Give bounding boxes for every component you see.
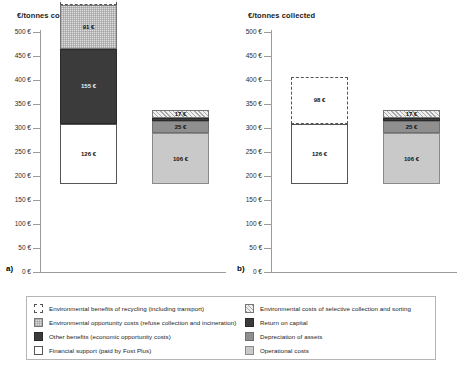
x-axis-line xyxy=(271,272,457,273)
x-axis-line xyxy=(40,272,226,273)
y-axis-tick-label: 200 € xyxy=(3,172,31,179)
y-axis-tick xyxy=(33,104,40,105)
legend-swatch-environmental_opportunity_costs xyxy=(34,318,43,327)
legend-item: Environmental opportunity costs (refuse … xyxy=(34,316,244,329)
y-axis-tick xyxy=(264,176,271,177)
bar-segment-environmental_benefits_recycling: 98 € xyxy=(60,0,117,5)
bar-segment-return_on_capital xyxy=(383,118,440,121)
legend-item: Depreciation of assets xyxy=(245,330,435,343)
y-axis-title: €/tonnes collected xyxy=(248,11,315,20)
y-axis-tick xyxy=(264,104,271,105)
y-axis-tick xyxy=(33,128,40,129)
y-axis-tick xyxy=(33,248,40,249)
y-axis-tick xyxy=(264,152,271,153)
bar-segment-depreciation_of_assets: 25 € xyxy=(152,121,209,133)
legend-swatch-financial_support xyxy=(34,346,43,355)
panel-tag-b: b) xyxy=(237,264,245,273)
y-axis-tick xyxy=(264,32,271,33)
y-axis-tick-label: 250 € xyxy=(3,148,31,155)
y-axis-tick-label: 100 € xyxy=(234,220,262,227)
bar-segment-operational_costs: 106 € xyxy=(383,133,440,184)
y-axis-tick-label: 400 € xyxy=(3,76,31,83)
y-axis-line xyxy=(40,30,41,273)
legend-item: Other benefits (economic opportunity cos… xyxy=(34,330,244,343)
y-axis-tick-label: 500 € xyxy=(3,28,31,35)
legend-label: Financial support (paid by Fost Plus) xyxy=(49,347,151,354)
y-axis-tick xyxy=(264,248,271,249)
bar-segment-return_on_capital xyxy=(152,118,209,121)
legend-item: Return on capital xyxy=(245,316,435,329)
legend-item: Environmental costs of selective collect… xyxy=(245,302,435,315)
y-axis-tick xyxy=(33,224,40,225)
legend-item: Environmental benefits of recycling (inc… xyxy=(34,302,244,315)
y-axis-tick-label: 150 € xyxy=(234,196,262,203)
benefits-bar: 126 €98 € xyxy=(291,183,348,184)
legend-label: Other benefits (economic opportunity cos… xyxy=(49,333,171,340)
legend-swatch-operational_costs xyxy=(245,346,254,355)
y-axis-tick-label: 350 € xyxy=(234,100,262,107)
legend-swatch-environmental_benefits_recycling xyxy=(34,304,43,313)
y-axis-tick-label: 500 € xyxy=(234,28,262,35)
legend-label: Depreciation of assets xyxy=(260,333,322,340)
y-axis-tick xyxy=(264,128,271,129)
y-axis-line xyxy=(271,30,272,273)
costs-bar: 106 €25 €17 € xyxy=(383,183,440,184)
chart-legend: Environmental benefits of recycling (inc… xyxy=(26,296,436,360)
y-axis-tick-label: 450 € xyxy=(3,52,31,59)
legend-column-left: Environmental benefits of recycling (inc… xyxy=(34,302,244,358)
bar-segment-depreciation_of_assets: 25 € xyxy=(383,121,440,133)
y-axis-tick xyxy=(264,56,271,57)
legend-label: Environmental benefits of recycling (inc… xyxy=(49,305,204,312)
bar-segment-environmental_benefits_recycling: 98 € xyxy=(291,77,348,124)
legend-item: Financial support (paid by Fost Plus) xyxy=(34,344,244,357)
legend-label: Environmental opportunity costs (refuse … xyxy=(49,319,236,326)
legend-swatch-environmental_costs_selective xyxy=(245,304,254,313)
y-axis-tick xyxy=(264,224,271,225)
y-axis-tick-label: 400 € xyxy=(234,76,262,83)
bar-segment-financial_support: 126 € xyxy=(60,124,117,184)
y-axis-tick-label: 50 € xyxy=(3,244,31,251)
y-axis-tick-label: 100 € xyxy=(3,220,31,227)
legend-swatch-return_on_capital xyxy=(245,318,254,327)
y-axis-tick xyxy=(264,200,271,201)
legend-swatch-other_benefits xyxy=(34,332,43,341)
y-axis-tick xyxy=(33,176,40,177)
y-axis-tick-label: 200 € xyxy=(234,172,262,179)
y-axis-tick xyxy=(264,80,271,81)
bar-segment-environmental_costs_selective: 17 € xyxy=(383,110,440,118)
y-axis-tick-label: 150 € xyxy=(3,196,31,203)
costs-bar: 106 €25 €17 € xyxy=(152,183,209,184)
y-axis-tick xyxy=(33,56,40,57)
chart-panel-b: €/tonnes collected 0 €50 €100 €150 €200 … xyxy=(231,0,462,292)
legend-label: Operational costs xyxy=(260,347,309,354)
y-axis-tick xyxy=(264,272,271,273)
panel-tag-a: a) xyxy=(6,264,13,273)
legend-label: Environmental costs of selective collect… xyxy=(260,305,411,312)
legend-label: Return on capital xyxy=(260,319,308,326)
bar-segment-operational_costs: 106 € xyxy=(152,133,209,184)
chart-panel-a: €/tonnes collected 0 €50 €100 €150 €200 … xyxy=(0,0,231,292)
y-axis-tick-label: 350 € xyxy=(3,100,31,107)
y-axis-tick xyxy=(33,272,40,273)
bar-segment-other_benefits: 155 € xyxy=(60,49,117,123)
y-axis-tick-label: 250 € xyxy=(234,148,262,155)
bar-segment-environmental_costs_selective: 17 € xyxy=(152,110,209,118)
y-axis-tick-label: 450 € xyxy=(234,52,262,59)
y-axis-tick xyxy=(33,200,40,201)
benefits-bar: 126 €155 €91 €98 € xyxy=(60,183,117,184)
y-axis-tick-label: 50 € xyxy=(234,244,262,251)
legend-column-right: Environmental costs of selective collect… xyxy=(245,302,435,358)
legend-item: Operational costs xyxy=(245,344,435,357)
bar-segment-financial_support: 126 € xyxy=(291,124,348,184)
y-axis-tick xyxy=(33,32,40,33)
bar-segment-environmental_opportunity_costs: 91 € xyxy=(60,5,117,49)
legend-swatch-depreciation_of_assets xyxy=(245,332,254,341)
y-axis-tick xyxy=(33,80,40,81)
y-axis-tick-label: 300 € xyxy=(3,124,31,131)
y-axis-tick-label: 300 € xyxy=(234,124,262,131)
y-axis-tick xyxy=(33,152,40,153)
